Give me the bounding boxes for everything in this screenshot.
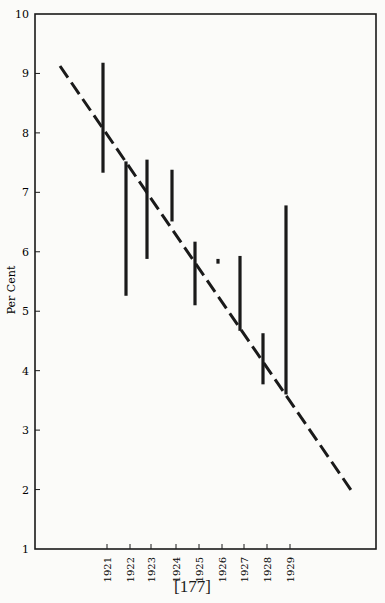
y-tick-label: 6 xyxy=(22,246,29,259)
y-axis-label: Per Cent xyxy=(5,265,18,314)
bond-yield-range-chart: 12345678910 1921192219231924192519261927… xyxy=(0,0,385,603)
page-number: [177] xyxy=(0,577,385,597)
y-tick-label: 1 xyxy=(22,543,29,556)
y-tick-label: 7 xyxy=(22,186,29,199)
trend-line xyxy=(60,66,351,490)
y-axis: 12345678910 xyxy=(15,8,40,556)
y-tick-label: 5 xyxy=(22,305,29,318)
y-tick-label: 10 xyxy=(15,8,29,21)
y-tick-label: 3 xyxy=(22,424,29,437)
y-tick-label: 8 xyxy=(22,127,29,140)
y-tick-label: 2 xyxy=(22,484,29,497)
plot-frame xyxy=(35,14,376,549)
range-bars xyxy=(103,63,286,395)
y-tick-label: 4 xyxy=(22,365,29,378)
y-tick-label: 9 xyxy=(22,67,29,80)
